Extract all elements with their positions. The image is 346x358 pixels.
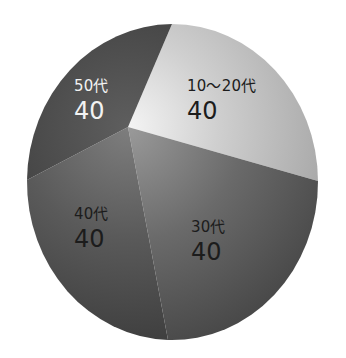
pie-chart <box>0 0 346 358</box>
label-50s: 50代 40 <box>74 79 109 123</box>
label-40s: 40代 40 <box>74 207 109 251</box>
label-10-20s: 10～20代 40 <box>187 79 256 123</box>
label-40s-value: 40 <box>74 227 109 251</box>
label-50s-value: 40 <box>74 99 109 123</box>
label-40s-category: 40代 <box>74 207 109 222</box>
label-10-20s-value: 40 <box>187 99 256 123</box>
label-50s-category: 50代 <box>74 79 109 94</box>
label-30s: 30代 40 <box>191 220 226 264</box>
label-30s-category: 30代 <box>191 220 226 235</box>
label-10-20s-category: 10～20代 <box>187 79 256 94</box>
label-30s-value: 40 <box>191 240 226 264</box>
